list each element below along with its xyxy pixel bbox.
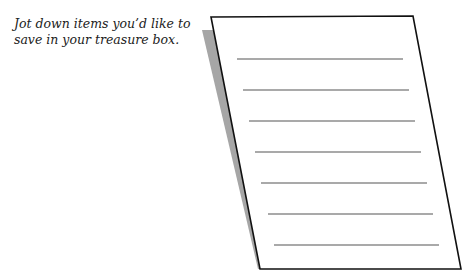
lined-note-sheet xyxy=(0,0,465,271)
sheet-paper xyxy=(211,16,461,269)
